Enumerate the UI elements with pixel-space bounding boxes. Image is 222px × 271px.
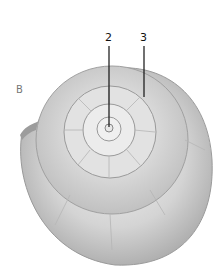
callout-2-label: 2 [105, 32, 112, 43]
panel-label: B [16, 85, 23, 95]
callout-3-label: 3 [140, 32, 147, 43]
shell-illustration-figure: B 2 3 [0, 0, 222, 271]
